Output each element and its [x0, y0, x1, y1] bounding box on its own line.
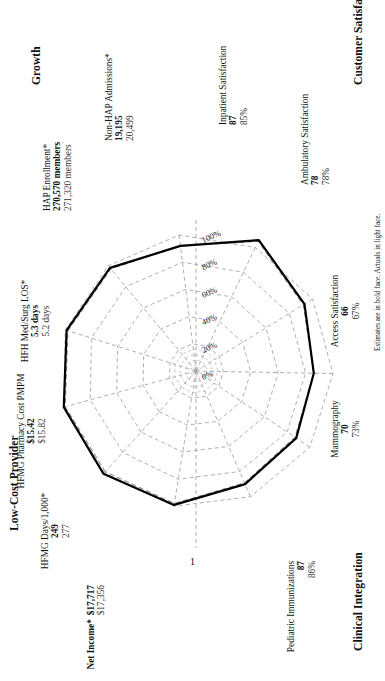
axis-estimate-value: 19,195	[114, 53, 124, 141]
figure-footnote: Estimates are in bold face. Actuals in l…	[374, 214, 382, 351]
axis-estimate-value: 70	[340, 424, 350, 433]
group-heading-clinical-integration: Clinical Integration	[352, 552, 365, 651]
axis-title: Ambulatory Satisfaction	[300, 94, 310, 185]
axis-label-ambulatory-satisfaction: Ambulatory Satisfaction7878%	[300, 94, 331, 185]
axis-label-hfmg-pharmacy-cost-pmpm: HFMG Pharmacy Cost PMPM$15.42$15.82	[16, 374, 47, 489]
axis-title: Net Income*	[86, 619, 96, 669]
axis-label-pediatric-immunizations: Pediatric Immunizations8786%	[286, 561, 317, 652]
axis-estimate-value: 78	[310, 94, 320, 185]
axis-marker-1: 1	[190, 556, 195, 567]
group-heading-growth: Growth	[30, 46, 43, 85]
axis-actual-value: 5.2 days	[41, 306, 51, 337]
radar-chart-figure: 0% 20% 40% 60% 80% 100% 1 Low-Cost Provi…	[0, 0, 385, 681]
axis-title: Pediatric Immunizations	[286, 561, 296, 652]
axis-label-net-income: Net Income*$17,717$17,356	[86, 585, 107, 670]
axis-actual-value: 85%	[239, 46, 249, 125]
axis-title: HFMG Pharmacy Cost PMPM	[16, 374, 26, 489]
axis-estimate-value: 5.3 days	[30, 305, 40, 337]
rotated-figure-wrapper: 0% 20% 40% 60% 80% 100% 1 Low-Cost Provi…	[0, 0, 385, 681]
axis-title: Mammography	[330, 400, 340, 457]
axis-label-hfmg-days-1-000: HFMG Days/1,000*249277	[40, 493, 71, 569]
axis-actual-value: $17,356	[96, 585, 106, 615]
axis-label-mammography: Mammography7073%	[330, 400, 361, 457]
axis-title: Non-HAP Admissions*	[104, 53, 114, 141]
axis-actual-value: 67%	[351, 302, 361, 319]
axis-actual-value: 86%	[307, 561, 317, 578]
axis-estimate-value: 87	[228, 46, 238, 125]
axis-actual-value: $15.82	[37, 418, 47, 444]
axis-label-hfh-med-surg-los: HFH Med/Surg LOS*5.3 days5.2 days	[20, 280, 51, 362]
axis-actual-value: 78%	[321, 94, 331, 185]
axis-estimate-value: 249	[50, 524, 60, 538]
axis-label-hap-enrollment: HAP Enrollment*270,570 members271,320 me…	[42, 142, 73, 211]
axis-estimate-value: $17,717	[86, 585, 96, 615]
axis-estimate-value: 270,570 members	[52, 142, 62, 211]
axis-estimate-value: 87	[296, 561, 306, 570]
axis-title: HFMG Days/1,000*	[40, 493, 50, 569]
axis-title: Access Satisfaction	[330, 275, 340, 348]
axis-label-inpatient-satisfaction: Inpatient Satisfaction8785%	[218, 46, 249, 125]
axis-estimate-value: $15.42	[26, 418, 36, 444]
axis-estimate-value: 66	[340, 306, 350, 315]
axis-actual-value: 271,320 members	[63, 142, 73, 211]
axis-title: HFH Med/Surg LOS*	[20, 280, 30, 362]
group-heading-customer-satisfaction: Customer Satisfaction	[352, 0, 365, 85]
axis-actual-value: 73%	[351, 420, 361, 437]
axis-label-non-hap-admissions: Non-HAP Admissions*19,19520,499	[104, 53, 135, 141]
axis-actual-value: 277	[61, 524, 71, 538]
axis-title: Inpatient Satisfaction	[218, 46, 228, 125]
axis-label-access-satisfaction: Access Satisfaction6667%	[330, 275, 361, 348]
axis-actual-value: 20,499	[125, 53, 135, 141]
axis-title: HAP Enrollment*	[42, 142, 52, 211]
axis-title-row: Net Income*$17,717	[86, 585, 96, 670]
